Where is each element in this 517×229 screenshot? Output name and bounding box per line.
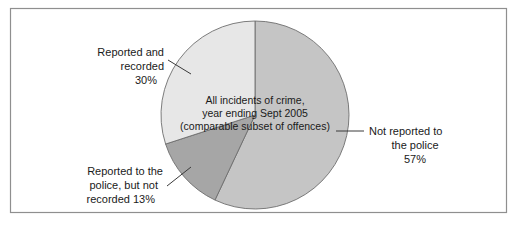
label-not-reported-line-1: Not reported to [369,125,442,137]
label-reported-recorded-line-2: recorded [121,60,164,72]
center-annotation-line-3: (comparable subset of offences) [180,120,330,132]
pie-chart-figure: All incidents of crime, year ending Sept… [0,0,517,229]
label-not-reported-line-3: 57% [404,153,426,165]
label-reported-recorded-line-3: 30% [135,74,157,86]
label-reported-not-recorded-line-1: Reported to the [87,165,163,177]
center-annotation-line-2: year ending Sept 2005 [202,107,308,119]
center-annotation-line-1: All incidents of crime, [205,94,304,106]
label-not-reported-line-2: the police [391,139,438,151]
label-reported-not-recorded-line-3: recorded 13% [87,193,156,205]
label-reported-not-recorded-line-2: police, but not [90,179,159,191]
label-reported-recorded-line-1: Reported and [97,46,164,58]
